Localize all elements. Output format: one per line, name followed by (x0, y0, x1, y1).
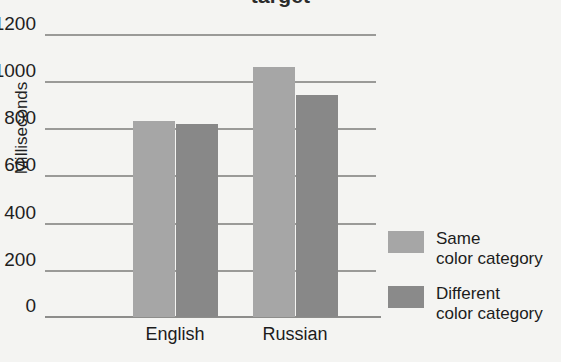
y-tick-label-800: 800 (0, 108, 36, 127)
legend-swatch-different-icon (388, 286, 424, 308)
y-tick-label-0: 0 (0, 296, 36, 315)
chart-title: target (0, 0, 561, 10)
x-tick-label-russian: Russian (235, 324, 355, 345)
legend-label-same: Same color category (436, 229, 543, 268)
y-tick-label-1000: 1000 (0, 61, 36, 80)
chart-legend: Same color category Different color cate… (388, 229, 543, 340)
legend-label-different-line1: Different (436, 284, 543, 304)
plot-area: 1200 1000 800 600 400 200 0 English Russ… (45, 34, 376, 317)
bar-russian-same (253, 67, 295, 317)
legend-item-same: Same color category (388, 229, 543, 268)
y-tick-label-1200: 1200 (0, 14, 36, 33)
gridline-1000: 1000 (45, 81, 376, 83)
bar-english-different (176, 124, 218, 317)
legend-label-different: Different color category (436, 284, 543, 323)
y-tick-label-600: 600 (0, 155, 36, 174)
legend-label-same-line2: color category (436, 249, 543, 269)
legend-swatch-same-icon (388, 231, 424, 253)
gridline-1200: 1200 (45, 34, 376, 36)
bar-english-same (133, 121, 175, 317)
y-tick-label-200: 200 (0, 250, 36, 269)
legend-item-different: Different color category (388, 284, 543, 323)
legend-label-different-line2: color category (436, 304, 543, 324)
bar-russian-different (296, 95, 338, 317)
x-tick-label-english: English (115, 324, 235, 345)
y-tick-label-400: 400 (0, 203, 36, 222)
legend-label-same-line1: Same (436, 229, 543, 249)
